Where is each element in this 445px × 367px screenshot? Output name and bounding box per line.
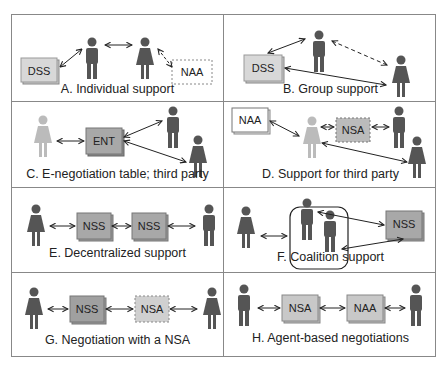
panel-c-cell: C. E-negotiation table; third party <box>12 102 223 187</box>
panel-h-cell: H. Agent-based negotiations <box>224 273 437 358</box>
caption-d: D. Support for third party <box>224 167 437 181</box>
panel-b-cell: B. Group support <box>224 15 437 101</box>
panel-f-cell: F. Coalition support <box>224 188 437 272</box>
caption-e: E. Decentralized support <box>12 246 223 260</box>
caption-a: A. Individual support <box>12 82 223 96</box>
caption-b: B. Group support <box>224 82 437 96</box>
caption-f: F. Coalition support <box>224 250 437 264</box>
panel-e-cell: E. Decentralized support <box>12 188 223 272</box>
panel-a-cell: A. Individual support <box>12 15 223 101</box>
panel-g-cell: G. Negotiation with a NSA <box>12 273 223 358</box>
panel-d-cell: D. Support for third party <box>224 102 437 187</box>
caption-c: C. E-negotiation table; third party <box>12 167 223 181</box>
caption-h: H. Agent-based negotiations <box>224 331 437 345</box>
caption-g: G. Negotiation with a NSA <box>12 333 223 347</box>
diagram-grid: DSS NAA DSS ENT NAA <box>11 14 436 357</box>
